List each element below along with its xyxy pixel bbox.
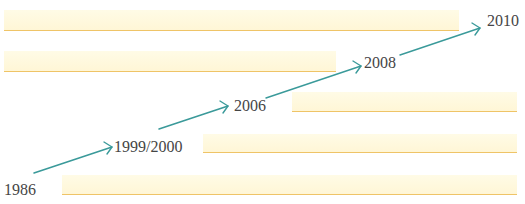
timeline-bar-1 (4, 10, 459, 31)
milestone-label-2006: 2006 (234, 98, 266, 114)
timeline-diagram: 1986 1999/2000 2006 2008 2010 (0, 0, 525, 204)
timeline-bar-3 (292, 92, 517, 112)
arrow-icon (159, 101, 228, 129)
arrow-icon (34, 142, 112, 173)
milestone-label-1999-2000: 1999/2000 (114, 139, 182, 155)
milestone-label-2008: 2008 (364, 55, 396, 71)
timeline-bar-5 (62, 175, 517, 195)
milestone-label-2010: 2010 (487, 13, 519, 29)
timeline-bar-4 (203, 134, 517, 153)
milestone-label-1986: 1986 (4, 182, 36, 198)
timeline-bar-2 (4, 51, 336, 72)
